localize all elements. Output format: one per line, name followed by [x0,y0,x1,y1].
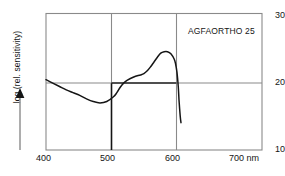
plot-frame [46,14,262,151]
series-line-agfaortho-25 [46,52,181,123]
plot-area [0,0,285,176]
data-series-group [46,52,181,123]
frame-rect [46,14,262,151]
chart-container: log (rel. sensitivity) 30 20 10 400 500 … [0,0,285,176]
gridlines [46,14,262,151]
